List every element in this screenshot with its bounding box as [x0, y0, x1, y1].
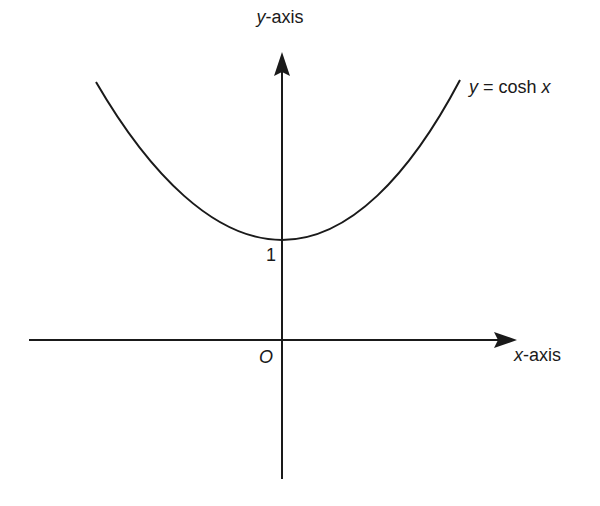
curve-label: y = cosh x [467, 77, 552, 97]
cosh-curve [96, 80, 460, 240]
x-axis-label: x-axis [513, 345, 561, 365]
y-axis-label: y-axis [254, 7, 303, 27]
y-intercept-label: 1 [266, 245, 276, 265]
cosh-diagram: y-axis x-axis y = cosh x 1 O [0, 0, 600, 506]
origin-label: O [259, 347, 273, 367]
